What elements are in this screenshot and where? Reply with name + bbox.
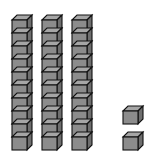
ones-cubes: [123, 106, 143, 150]
tens-rod: [42, 15, 62, 150]
unit-cube: [123, 132, 143, 150]
tens-rod: [12, 15, 32, 150]
rod-cube: [12, 132, 32, 150]
rod-cube: [72, 132, 92, 150]
base-ten-blocks-diagram: [0, 0, 158, 161]
tens-rods: [12, 15, 92, 150]
tens-rod: [72, 15, 92, 150]
unit-cube: [123, 106, 143, 124]
rod-cube: [42, 132, 62, 150]
